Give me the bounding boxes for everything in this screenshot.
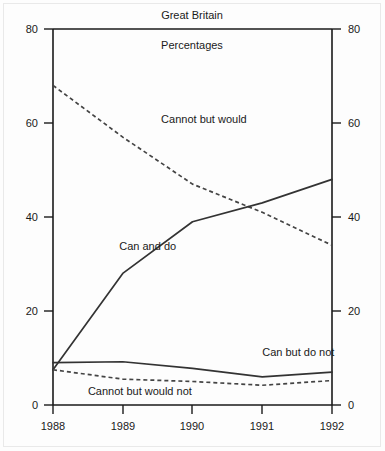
y-label-right-60: 60 bbox=[348, 117, 360, 129]
series-line-cannot-but-would-not bbox=[53, 370, 332, 386]
x-label-1990: 1990 bbox=[180, 420, 204, 432]
series-line-can-and-do bbox=[53, 179, 332, 369]
chart-title: Great Britain bbox=[161, 9, 223, 21]
y-label-left-20: 20 bbox=[26, 305, 38, 317]
y-label-right-80: 80 bbox=[348, 23, 360, 35]
x-label-1988: 1988 bbox=[41, 420, 65, 432]
series-label-cannot-but-would-not: Cannot but would not bbox=[88, 385, 192, 397]
line-chart-svg: Great Britain Percentages 80 60 40 20 0 … bbox=[0, 0, 385, 451]
y-label-right-20: 20 bbox=[348, 305, 360, 317]
chart-subtitle: Percentages bbox=[161, 39, 223, 51]
y-label-right-0: 0 bbox=[348, 399, 354, 411]
x-label-1992: 1992 bbox=[320, 420, 344, 432]
series-label-can-but-do-not: Can but do not bbox=[262, 346, 334, 358]
chart-container: Great Britain Percentages 80 60 40 20 0 … bbox=[0, 0, 385, 451]
x-label-1989: 1989 bbox=[111, 420, 135, 432]
x-label-1991: 1991 bbox=[250, 420, 274, 432]
series-label-cannot-but-would: Cannot but would bbox=[161, 113, 247, 125]
y-label-left-0: 0 bbox=[32, 399, 38, 411]
series-label-can-and-do: Can and do bbox=[119, 240, 176, 252]
y-label-left-80: 80 bbox=[26, 23, 38, 35]
y-label-right-40: 40 bbox=[348, 211, 360, 223]
y-label-left-60: 60 bbox=[26, 117, 38, 129]
y-label-left-40: 40 bbox=[26, 211, 38, 223]
